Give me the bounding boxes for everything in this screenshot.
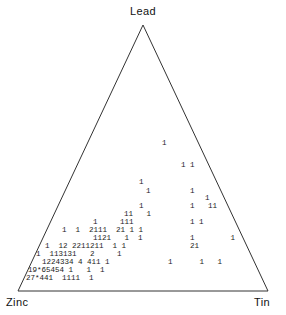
data-count-row: 19*65454 1 1 1 <box>28 266 105 274</box>
data-count-row: 1121 1 1 <box>93 234 143 242</box>
data-count-row: 1 <box>139 202 144 210</box>
data-count-row: 1 111 <box>93 218 134 226</box>
data-count-row: 1 <box>205 194 210 202</box>
data-count-row: 1 1 <box>190 234 235 242</box>
data-count-row: 1 <box>190 187 195 195</box>
data-count-row: 1224334 4 411 1 <box>42 258 110 266</box>
data-count-row: 11 1 <box>124 210 151 218</box>
data-count-row: 21 <box>190 242 199 250</box>
data-count-row: 1 <box>162 139 167 147</box>
data-count-row: 1 11 <box>190 202 217 210</box>
data-count-row: 27*441 1111 1 <box>26 274 94 282</box>
data-count-row: 1 <box>146 187 151 195</box>
data-point-layer: 11 1111111 1111 11 1111 11 1 2111 21 1 1… <box>0 0 286 315</box>
data-count-row: 1 1 <box>190 218 204 226</box>
data-count-row: 1 1 <box>181 161 195 169</box>
ternary-diagram-figure: Lead Zinc Tin 11 1111111 1111 11 1111 11… <box>0 0 286 315</box>
data-count-row: 1 1 2111 21 1 1 <box>62 226 143 234</box>
data-count-row: 1 1 1 <box>168 258 222 266</box>
data-count-row: 1 113131 2 1 <box>36 250 122 258</box>
data-count-row: 1 <box>139 178 144 186</box>
data-count-row: 1 12 2211211 1 1 <box>45 242 126 250</box>
